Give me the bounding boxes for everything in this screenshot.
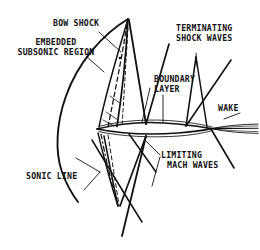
terminating-shock-rear-left (186, 57, 196, 126)
label-embedded-subsonic-region-line2: SUBSONIC REGION (10, 48, 102, 58)
body-profile-lower (97, 129, 211, 134)
leader-limiting-mach-waves-2 (152, 157, 160, 186)
leader-sonic-line-2 (84, 172, 100, 190)
upper-pocket-characteristic-1 (110, 96, 121, 104)
leader-sonic-line (76, 158, 100, 172)
transonic-flow-diagram: BOW SHOCK EMBEDDED SUBSONIC REGION TERMI… (0, 0, 260, 250)
leader-bow-shock (99, 32, 121, 52)
terminating-shock-upper-rear (129, 20, 146, 124)
leader-terminating-shock (196, 53, 197, 66)
label-sonic-line: SONIC LINE (26, 172, 77, 182)
leader-limiting-mach-waves (146, 141, 160, 155)
limiting-mach-wave-lower (122, 136, 146, 236)
limiting-mach-wave-lower-b (129, 134, 156, 172)
label-bow-shock: BOW SHOCK (53, 19, 99, 29)
upper-pocket-characteristic-2 (106, 112, 118, 120)
terminating-shock-rear-right (196, 57, 207, 127)
label-limiting-mach-waves-line2: MACH WAVES (167, 161, 218, 171)
oblique-wave-upper-right (186, 60, 231, 126)
leader-wake (224, 113, 240, 119)
terminating-shock-lower-rear (120, 136, 146, 206)
subsonic-region-marker-dot (119, 57, 122, 60)
leader-embedded-subsonic (86, 56, 104, 72)
label-terminating-shock-waves-line2: SHOCK WAVES (176, 34, 232, 44)
label-boundary-layer-line2: LAYER (154, 85, 180, 95)
label-wake: WAKE (218, 104, 239, 114)
